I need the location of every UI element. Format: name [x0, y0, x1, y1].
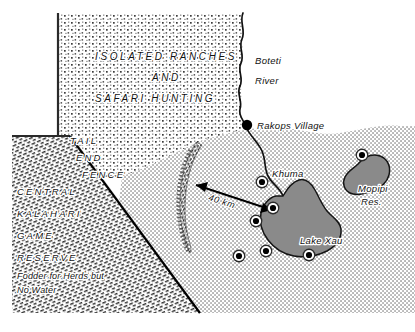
label-mopipi-res: Res.	[361, 196, 382, 207]
label-khuma: Khuma	[272, 168, 304, 179]
label-central: CENTRAL	[17, 186, 77, 197]
label-and: AND	[151, 72, 181, 83]
borehole	[233, 250, 246, 263]
label-fence: FENCE	[82, 169, 125, 180]
borehole	[250, 215, 263, 228]
label-game: GAME	[17, 230, 54, 241]
label-end: END	[76, 152, 103, 163]
borehole	[303, 249, 316, 262]
borehole	[267, 202, 280, 215]
map-canvas: ISOLATED RANCHES AND SAFARI HUNTING Bote…	[0, 0, 415, 332]
borehole	[260, 245, 273, 258]
map-figure: ISOLATED RANCHES AND SAFARI HUNTING Bote…	[0, 0, 415, 332]
label-rakops-village: Rakops Village	[257, 120, 324, 131]
label-reserve-note-1: Fodder for Herds but	[17, 271, 104, 281]
rakops-village-dot	[242, 120, 252, 130]
label-reserve-note-2: No Water	[17, 285, 57, 295]
label-isolated-ranches: ISOLATED RANCHES	[95, 51, 237, 62]
map-layers: ISOLATED RANCHES AND SAFARI HUNTING Bote…	[0, 0, 415, 332]
borehole	[256, 176, 269, 189]
label-river: River	[255, 75, 279, 86]
label-mopipi: Mopipi	[358, 183, 388, 194]
borehole	[356, 149, 369, 162]
label-reserve: RESERVE	[17, 252, 78, 263]
label-kalahari: KALAHARI	[17, 208, 82, 219]
label-tail: TAIL	[70, 135, 98, 146]
label-lake-xau: Lake Xau	[300, 235, 343, 246]
label-safari-hunting: SAFARI HUNTING	[95, 93, 215, 104]
label-boteti: Boteti	[255, 55, 282, 66]
